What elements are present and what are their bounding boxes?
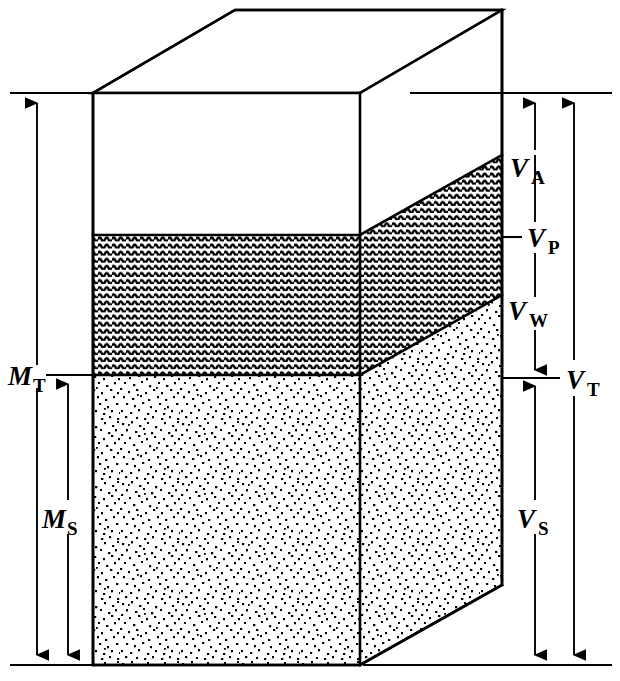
label-mass-solids: M S xyxy=(41,504,78,539)
phase-diagram-canvas: M T M S V A V P V W xyxy=(0,0,620,681)
label-mass-solids-symbol: M xyxy=(41,504,67,534)
front-face-solids xyxy=(93,375,360,665)
label-volume-pores-symbol: V xyxy=(527,223,547,253)
label-mass-total-symbol: M xyxy=(7,361,33,391)
label-volume-air-symbol: V xyxy=(510,153,530,183)
label-volume-air-subscript: A xyxy=(531,167,545,188)
label-volume-air: V A xyxy=(510,153,545,188)
label-mass-total-subscript: T xyxy=(33,375,46,396)
soil-phase-diagram: M T M S V A V P V W xyxy=(0,0,620,681)
label-mass-solids-subscript: S xyxy=(67,518,78,539)
label-volume-solids-subscript: S xyxy=(538,518,549,539)
label-volume-solids: V S xyxy=(517,504,549,539)
label-volume-solids-symbol: V xyxy=(517,504,537,534)
label-volume-water-subscript: W xyxy=(529,310,548,331)
soil-block xyxy=(93,10,502,665)
label-volume-total-symbol: V xyxy=(566,365,586,395)
label-volume-total: V T xyxy=(566,365,600,400)
label-volume-total-subscript: T xyxy=(587,379,600,400)
label-volume-pores-subscript: P xyxy=(548,237,560,258)
label-volume-pores: V P xyxy=(527,223,560,258)
label-mass-total: M T xyxy=(7,361,46,396)
label-volume-water-symbol: V xyxy=(508,296,528,326)
front-face-air xyxy=(93,93,360,235)
front-face-water xyxy=(93,235,360,375)
label-volume-water: V W xyxy=(508,296,548,331)
